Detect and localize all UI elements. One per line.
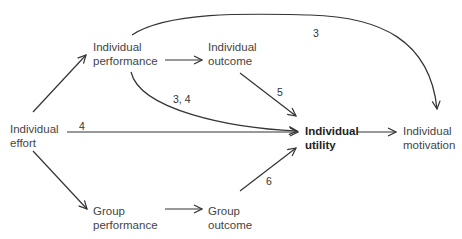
edge-label-performance-to-motivation: 3 xyxy=(313,27,319,39)
node-individual-outcome: Individual outcome xyxy=(208,40,257,68)
node-label-line1: Individual xyxy=(10,122,59,136)
node-label-line1: Individual xyxy=(305,124,359,138)
node-label-line1: Individual xyxy=(208,40,257,54)
edge-performance-to-utility xyxy=(131,72,297,131)
edge-outcome-to-utility xyxy=(240,73,296,116)
edge-label-performance-to-utility: 3, 4 xyxy=(173,93,191,105)
edge-effort-to-group-performance xyxy=(33,151,87,209)
node-label-line1: Group xyxy=(208,204,252,218)
node-individual-performance: Individual performance xyxy=(93,40,158,68)
node-label-line1: Individual xyxy=(403,124,455,138)
node-label-line2: outcome xyxy=(208,218,252,232)
edge-label-outcome-to-utility: 5 xyxy=(277,86,283,98)
edge-label-effort-to-utility: 4 xyxy=(79,120,85,132)
node-individual-utility: Individual utility xyxy=(305,124,359,152)
node-label-line2: motivation xyxy=(403,138,455,152)
node-group-outcome: Group outcome xyxy=(208,204,252,232)
node-label-line2: effort xyxy=(10,136,59,150)
node-label-line2: outcome xyxy=(208,54,257,68)
node-individual-effort: Individual effort xyxy=(10,122,59,150)
node-label-line1: Group xyxy=(93,204,158,218)
node-group-performance: Group performance xyxy=(93,204,158,232)
edge-effort-to-performance xyxy=(33,55,86,112)
node-label-line1: Individual xyxy=(93,40,158,54)
node-label-line2: performance xyxy=(93,218,158,232)
node-label-line2: performance xyxy=(93,54,158,68)
node-individual-motivation: Individual motivation xyxy=(403,124,455,152)
node-label-line2: utility xyxy=(305,138,359,152)
edge-label-group-outcome-to-utility: 6 xyxy=(266,175,272,187)
